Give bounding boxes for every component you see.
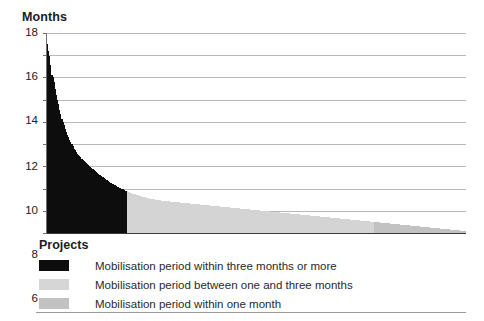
legend-swatch (39, 279, 69, 290)
legend-swatch (39, 298, 69, 309)
axis-baseline: 0 (47, 233, 466, 234)
legend-label: Mobilisation period between one and thre… (95, 279, 353, 291)
chart-page: Months 181614121086420 Projects Mobilisa… (0, 0, 484, 321)
chart-legend: Mobilisation period within three months … (39, 256, 353, 313)
legend-label: Mobilisation period within three months … (95, 260, 337, 272)
bottom-divider (36, 312, 466, 313)
x-axis-title: Projects (39, 238, 88, 252)
legend-item: Mobilisation period within one month (39, 294, 353, 313)
y-axis-title: Months (22, 10, 67, 24)
y-tick-mark (43, 233, 47, 234)
chart-series-bars (47, 33, 466, 233)
legend-swatch (39, 260, 69, 271)
legend-item: Mobilisation period between one and thre… (39, 275, 353, 294)
plot-area: 181614121086420 (47, 33, 466, 233)
legend-item: Mobilisation period within three months … (39, 256, 353, 275)
legend-label: Mobilisation period within one month (95, 298, 281, 310)
y-tick-label: 14 (25, 115, 47, 127)
y-tick-label: 12 (25, 161, 47, 173)
